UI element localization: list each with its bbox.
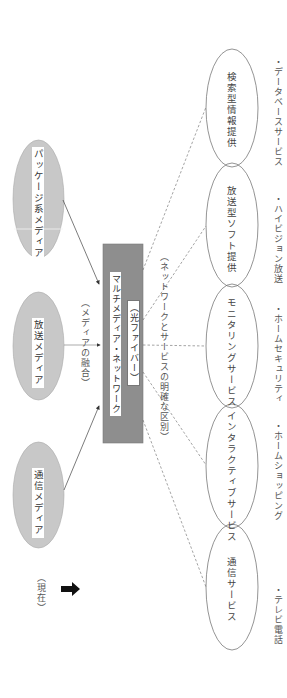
service-label-communication: 通信サービス — [226, 557, 236, 623]
source-label-communication: 通信メディア — [32, 468, 44, 538]
now-label: （現在） — [36, 573, 45, 613]
service-label-interactive: インタラクティブサービス — [226, 411, 236, 543]
service-example-interactive: ・ホームショッピング — [273, 421, 282, 521]
dashed-link-monitoring — [143, 345, 206, 346]
service-label-broadcast-soft: 放送型ソフト提供 — [226, 186, 236, 274]
network-subtitle: （光ファイバー） — [127, 300, 140, 386]
media-fusion-label: （メディアの融合） — [80, 298, 89, 388]
source-label-package: パッケージ系メディア — [32, 147, 44, 261]
service-label-monitoring: モニタリングサービス — [226, 298, 236, 408]
service-label-search: 検索型情報提供 — [226, 72, 236, 149]
service-example-communication: ・テレビ電話 — [273, 585, 282, 645]
media-convergence-diagram: （現在） パッケージ系メディア 放送メディア 通信メディア （メディアの融合） … — [0, 0, 287, 698]
service-example-search: ・データベースサービス — [273, 57, 282, 167]
arrow-communication-to-network — [64, 406, 99, 490]
dashed-link-search — [143, 107, 206, 270]
network-service-separation-label: （ネットワークとサービスの明確な区別） — [159, 252, 168, 442]
service-example-broadcast-soft: ・ハイビジョン放送 — [273, 194, 282, 284]
dashed-link-interactive — [143, 372, 206, 465]
arrow-package-to-network — [63, 200, 99, 284]
now-arrow-icon — [61, 582, 80, 596]
network-title: マルチメディア・ネットワーク — [110, 272, 121, 416]
service-example-monitoring: ・ホームセキュリティ — [273, 304, 282, 404]
source-label-broadcast: 放送メディア — [32, 318, 44, 388]
dashed-link-communication — [143, 420, 206, 587]
dashed-link-broadcast-soft — [143, 226, 206, 320]
